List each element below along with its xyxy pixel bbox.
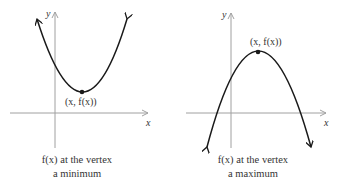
maximum-caption: f(x) at the vertex a maximum: [183, 153, 323, 181]
minimum-graph: x y (x, f(x)): [10, 8, 151, 148]
minimum-caption: f(x) at the vertex a minimum: [7, 153, 147, 181]
x-axis-label: x: [323, 117, 329, 128]
upward-parabola: [37, 19, 127, 92]
maximum-graph: x y (x, f(x)): [186, 9, 329, 148]
y-axis-label: y: [45, 8, 51, 19]
x-axis-label: x: [145, 117, 151, 128]
vertex-point: [256, 50, 261, 55]
y-axis-label: y: [221, 9, 227, 20]
caption-line-2: a minimum: [7, 167, 147, 181]
caption-line-1: f(x) at the vertex: [7, 153, 147, 167]
caption-line-1: f(x) at the vertex: [183, 153, 323, 167]
vertex-point: [80, 90, 85, 95]
downward-parabola: [207, 51, 311, 147]
vertex-label: (x, f(x)): [65, 96, 97, 108]
vertex-label: (x, f(x)): [250, 36, 282, 48]
caption-line-2: a maximum: [183, 167, 323, 181]
